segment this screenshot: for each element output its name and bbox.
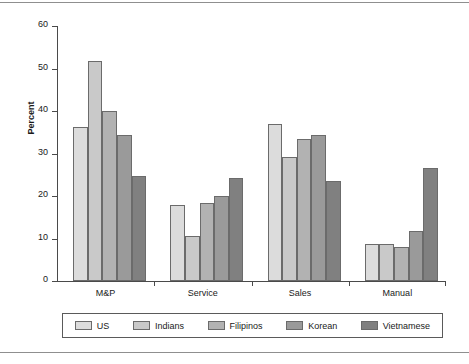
x-axis-category-label: Manual <box>349 288 446 298</box>
y-axis-tick: 0 <box>52 281 57 282</box>
y-axis-tick: 20 <box>52 196 57 197</box>
x-axis-tick <box>252 281 253 286</box>
y-axis-tick: 60 <box>52 26 57 27</box>
y-axis-line <box>57 26 58 282</box>
legend-swatch-icon <box>286 321 303 330</box>
bar-group <box>73 26 146 281</box>
bar-indians-manual <box>379 244 394 281</box>
x-axis-category-label: Service <box>154 288 251 298</box>
figure-rule-top <box>0 2 469 3</box>
legend-label: US <box>97 321 110 331</box>
bar-filipinos-manual <box>394 247 409 281</box>
legend-label: Vietnamese <box>383 321 430 331</box>
legend-swatch-icon <box>133 321 150 330</box>
x-axis-category-label: M&P <box>57 288 154 298</box>
x-axis-tick <box>445 281 446 286</box>
bar-filipinos-m-p <box>102 111 117 281</box>
bar-vietnamese-service <box>229 178 244 281</box>
bar-filipinos-service <box>200 203 215 281</box>
bar-us-manual <box>365 244 380 281</box>
y-axis-tick-label: 10 <box>26 232 48 243</box>
bar-vietnamese-sales <box>326 181 341 281</box>
x-axis-tick <box>349 281 350 286</box>
legend-swatch-icon <box>361 321 378 330</box>
bar-vietnamese-m-p <box>132 176 147 281</box>
chart-legend: USIndiansFilipinosKoreanVietnamese <box>62 313 443 338</box>
bar-korean-manual <box>409 231 424 281</box>
bar-group <box>365 26 438 281</box>
bar-us-sales <box>268 124 283 281</box>
bar-korean-service <box>214 196 229 281</box>
legend-label: Korean <box>308 321 337 331</box>
bar-korean-m-p <box>117 135 132 281</box>
bar-korean-sales <box>311 135 326 281</box>
legend-swatch-icon <box>208 321 225 330</box>
bar-group <box>170 26 243 281</box>
bar-group <box>268 26 341 281</box>
y-axis-tick-label: 0 <box>26 274 48 285</box>
legend-swatch-icon <box>75 321 92 330</box>
y-axis-tick-label: 20 <box>26 189 48 200</box>
y-axis-tick-label: 40 <box>26 104 48 115</box>
legend-label: Filipinos <box>230 321 263 331</box>
bar-indians-m-p <box>88 61 103 281</box>
x-axis-category-label: Sales <box>252 288 349 298</box>
figure: Percent 0102030405060 M&PServiceSalesMan… <box>0 0 469 364</box>
legend-item-us[interactable]: US <box>75 321 110 331</box>
legend-item-indians[interactable]: Indians <box>133 321 184 331</box>
bar-vietnamese-manual <box>423 168 438 281</box>
y-axis-tick: 50 <box>52 69 57 70</box>
legend-item-vietnamese[interactable]: Vietnamese <box>361 321 430 331</box>
y-axis-tick: 30 <box>52 154 57 155</box>
y-axis-tick-label: 50 <box>26 62 48 73</box>
legend-label: Indians <box>155 321 184 331</box>
x-axis-tick <box>154 281 155 286</box>
bar-indians-sales <box>282 157 297 281</box>
bar-us-service <box>170 205 185 281</box>
y-axis-tick: 10 <box>52 239 57 240</box>
legend-item-filipinos[interactable]: Filipinos <box>208 321 263 331</box>
bar-filipinos-sales <box>297 139 312 281</box>
figure-rule-bottom <box>0 352 469 353</box>
y-axis-tick-label: 30 <box>26 147 48 158</box>
bar-us-m-p <box>73 127 88 281</box>
bar-indians-service <box>185 236 200 281</box>
y-axis-tick: 40 <box>52 111 57 112</box>
y-axis-tick-label: 60 <box>26 19 48 30</box>
plot-area: 0102030405060 M&PServiceSalesManual <box>57 26 446 282</box>
legend-item-korean[interactable]: Korean <box>286 321 337 331</box>
